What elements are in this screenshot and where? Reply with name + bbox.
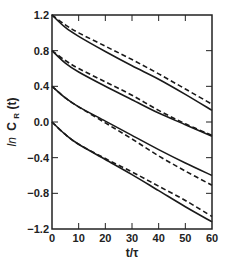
x-tick-label: 60 — [206, 232, 218, 244]
x-axis: 0102030405060 — [49, 15, 218, 244]
x-axis-label: t/τ — [126, 246, 139, 260]
series-line-dashed — [52, 51, 212, 136]
y-tick-label: 1.2 — [34, 9, 49, 21]
y-axis-label: ln C R (t) — [5, 98, 22, 147]
svg-text:ln C R (t): ln C R (t) — [5, 98, 22, 147]
plot-lines — [52, 15, 212, 222]
y-axis: 1.20.80.40.0−0.4−0.8−1.2 — [27, 9, 212, 235]
y-tick-label: 0.4 — [34, 80, 50, 92]
x-tick-label: 0 — [49, 232, 55, 244]
line-chart: 0102030405060 1.20.80.40.0−0.4−0.8−1.2 t… — [0, 0, 230, 268]
x-tick-label: 30 — [126, 232, 138, 244]
y-tick-label: 0.8 — [34, 45, 49, 57]
series-line-solid — [52, 51, 212, 137]
axes-frame — [52, 15, 212, 229]
y-tick-label: −1.2 — [27, 223, 49, 235]
series-line-dashed — [52, 15, 212, 104]
y-tick-label: 0.0 — [34, 116, 49, 128]
y-tick-label: −0.4 — [27, 152, 50, 164]
y-tick-label: −0.8 — [27, 187, 49, 199]
x-tick-label: 20 — [99, 232, 111, 244]
x-tick-label: 40 — [153, 232, 165, 244]
x-tick-label: 50 — [179, 232, 191, 244]
x-tick-label: 10 — [73, 232, 85, 244]
